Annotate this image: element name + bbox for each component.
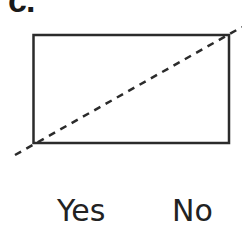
choice-yes-label[interactable]: Yes [57, 196, 105, 226]
dashed-diagonal-line [15, 27, 242, 155]
choice-no-label[interactable]: No [172, 196, 213, 226]
